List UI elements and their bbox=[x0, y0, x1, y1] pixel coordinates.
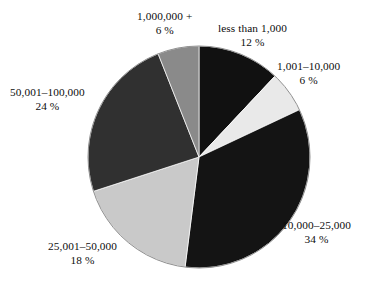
pie-label-less-than-1000: less than 1,000 12 % bbox=[218, 22, 287, 50]
pie-label-category: 10,000–25,000 bbox=[282, 219, 351, 233]
pie-label-percent: 6 % bbox=[277, 74, 340, 88]
pie-label-category: 1,000,000 + bbox=[137, 10, 192, 24]
pie-label-10000-25000: 10,000–25,000 34 % bbox=[282, 219, 351, 247]
pie-label-percent: 6 % bbox=[137, 24, 192, 38]
pie-label-1001-10000: 1,001–10,000 6 % bbox=[277, 60, 340, 88]
pie-label-1000000-plus: 1,000,000 + 6 % bbox=[137, 10, 192, 38]
pie-label-percent: 34 % bbox=[282, 233, 351, 247]
pie-label-category: less than 1,000 bbox=[218, 22, 287, 36]
pie-label-percent: 12 % bbox=[218, 36, 287, 50]
pie-label-25001-50000: 25,001–50,000 18 % bbox=[48, 240, 117, 268]
pie-chart-figure: less than 1,000 12 % 1,001–10,000 6 % 10… bbox=[0, 0, 384, 291]
pie-label-percent: 24 % bbox=[10, 100, 85, 114]
pie-label-50001-100000: 50,001–100,000 24 % bbox=[10, 86, 85, 114]
pie-label-category: 50,001–100,000 bbox=[10, 86, 85, 100]
pie-label-category: 25,001–50,000 bbox=[48, 240, 117, 254]
pie-label-percent: 18 % bbox=[48, 254, 117, 268]
pie-label-category: 1,001–10,000 bbox=[277, 60, 340, 74]
